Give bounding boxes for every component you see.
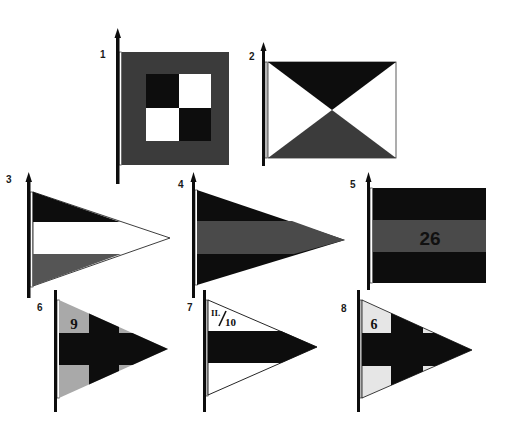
flagpole-icon — [261, 42, 268, 166]
flag-4: 4 — [178, 172, 345, 298]
flag-7: 7 II. 10 — [187, 290, 317, 412]
flag-3: 3 — [6, 172, 170, 298]
checker-white-bl — [146, 108, 179, 141]
checker-black-br — [179, 108, 211, 141]
flag-5: 5 26 — [350, 172, 486, 290]
flag-4-number: 4 — [178, 179, 184, 190]
flagpole-icon — [357, 290, 362, 412]
flag-6: 6 9 — [37, 290, 169, 412]
flag-8-label: 6 — [371, 317, 378, 332]
flag-5-number: 5 — [350, 179, 356, 190]
flag-7-label-numerator: II. — [211, 308, 220, 318]
flag-6-label: 9 — [70, 316, 78, 332]
flag-6-number: 6 — [37, 302, 43, 313]
flag-7-band-black — [208, 331, 317, 363]
flag-3-stripe-black — [33, 192, 120, 222]
flag-8: 8 6 — [341, 290, 473, 412]
flag-1: 1 — [100, 28, 229, 184]
flagpole-icon — [203, 290, 208, 412]
flag-5-label: 26 — [419, 228, 440, 249]
flag-1-number: 1 — [100, 49, 106, 60]
flagpole-icon — [191, 172, 198, 298]
flagpole-icon — [115, 28, 122, 184]
checker-white-tr — [179, 74, 211, 108]
flag-illustration: 1 2 3 4 — [0, 0, 509, 440]
flagpole-icon — [54, 290, 60, 412]
flag-2-number: 2 — [249, 51, 255, 62]
checker-black-tl — [146, 74, 179, 108]
flagpole-icon — [366, 172, 373, 290]
flag-8-number: 8 — [341, 303, 347, 314]
flag-3-number: 3 — [6, 174, 12, 185]
flagpole-icon — [26, 172, 34, 298]
flag-7-number: 7 — [187, 302, 193, 313]
flag-7-label-denominator: 10 — [225, 316, 237, 328]
flag-2: 2 — [249, 42, 396, 166]
flag-4-stripe-gray — [197, 221, 345, 254]
flag-6-cross-vertical — [89, 300, 119, 398]
